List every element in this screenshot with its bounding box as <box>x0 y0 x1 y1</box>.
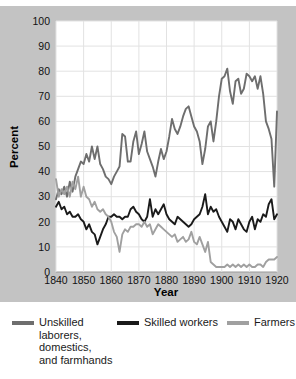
y-tick-80: 80 <box>38 65 50 77</box>
y-tick-30: 30 <box>38 190 50 202</box>
y-tick-70: 70 <box>38 90 50 102</box>
line-chart: 0102030405060708090100 18401850186018701… <box>0 0 296 302</box>
legend-item-unskilled[interactable]: Unskilled laborers, domestics, and farmh… <box>12 316 112 366</box>
chart-legend: Unskilled laborers, domestics, and farmh… <box>0 302 296 379</box>
y-tick-40: 40 <box>38 165 50 177</box>
x-tick-1860: 1860 <box>100 274 124 286</box>
x-axis-title: Year <box>154 286 179 298</box>
y-tick-60: 60 <box>38 115 50 127</box>
x-tick-1910: 1910 <box>238 274 262 286</box>
legend-label-farmers: Farmers <box>254 316 295 329</box>
legend-swatch-unskilled <box>12 321 34 325</box>
legend-label-skilled: Skilled workers <box>144 316 218 329</box>
x-tick-1900: 1900 <box>210 274 234 286</box>
x-tick-1870: 1870 <box>127 274 151 286</box>
x-tick-1880: 1880 <box>155 274 179 286</box>
y-tick-50: 50 <box>38 140 50 152</box>
x-tick-1890: 1890 <box>182 274 206 286</box>
x-tick-1840: 1840 <box>44 274 68 286</box>
chart-figure: 0102030405060708090100 18401850186018701… <box>0 0 296 379</box>
legend-item-skilled[interactable]: Skilled workers <box>117 316 218 329</box>
y-tick-10: 10 <box>38 241 50 253</box>
legend-label-unskilled: Unskilled laborers, domestics, and farmh… <box>39 316 112 366</box>
x-tick-1920: 1920 <box>265 274 289 286</box>
y-axis-title: Percent <box>8 126 20 168</box>
legend-item-farmers[interactable]: Farmers <box>227 316 295 329</box>
y-tick-90: 90 <box>38 40 50 52</box>
x-tick-1850: 1850 <box>72 274 96 286</box>
y-axis-tick-labels: 0102030405060708090100 <box>32 15 50 278</box>
y-tick-20: 20 <box>38 216 50 228</box>
y-tick-100: 100 <box>32 15 50 27</box>
legend-swatch-farmers <box>227 321 249 325</box>
x-axis-tick-labels: 184018501860187018801890190019101920 <box>44 274 289 286</box>
legend-swatch-skilled <box>117 321 139 325</box>
